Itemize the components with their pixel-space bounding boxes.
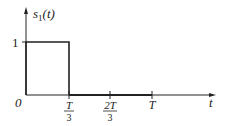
tick-label-2t3-num: 2T — [104, 99, 117, 111]
pulse-diagram: s1(t) 1 0 t T 3 2T 3 T — [0, 0, 229, 126]
tick-label-t3-num: T — [66, 99, 73, 111]
y-tick-label: 1 — [12, 35, 19, 50]
origin-label: 0 — [15, 95, 22, 110]
tick-label-2t3-den: 3 — [108, 112, 113, 123]
pulse-signal — [26, 42, 69, 95]
tick-label-t: T — [149, 98, 157, 112]
tick-label-t3-den: 3 — [67, 112, 72, 123]
y-axis-arrow-icon — [24, 7, 28, 14]
x-axis-label: t — [209, 95, 213, 110]
y-axis-label: s1(t) — [33, 6, 55, 23]
